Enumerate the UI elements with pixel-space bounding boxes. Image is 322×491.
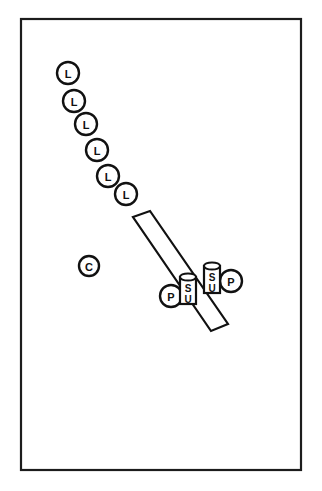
marker-circle[interactable] — [79, 256, 99, 276]
marker-P1[interactable]: P — [160, 285, 182, 307]
marker-C1[interactable]: C — [79, 256, 99, 276]
diagram-svg: L L L L L L C P — [0, 0, 322, 491]
marker-L3[interactable]: L — [75, 113, 97, 135]
marker-circle[interactable] — [160, 285, 182, 307]
marker-circle[interactable] — [97, 165, 119, 187]
marker-L2[interactable]: L — [63, 90, 85, 112]
marker-circle[interactable] — [115, 183, 137, 205]
marker-L1[interactable]: L — [57, 62, 79, 84]
marker-circle[interactable] — [63, 90, 85, 112]
cylinder-SU1[interactable]: S U — [180, 273, 196, 304]
cylinder-cap — [204, 262, 220, 269]
marker-circle[interactable] — [220, 270, 242, 292]
marker-L4[interactable]: L — [86, 139, 108, 161]
marker-L5[interactable]: L — [97, 165, 119, 187]
marker-P2[interactable]: P — [220, 270, 242, 292]
cylinder-SU2[interactable]: S U — [204, 262, 220, 293]
marker-circle[interactable] — [75, 113, 97, 135]
marker-circle[interactable] — [57, 62, 79, 84]
marker-circle[interactable] — [86, 139, 108, 161]
diagram-canvas: L L L L L L C P — [0, 0, 322, 491]
cylinder-cap — [180, 273, 196, 280]
marker-L6[interactable]: L — [115, 183, 137, 205]
